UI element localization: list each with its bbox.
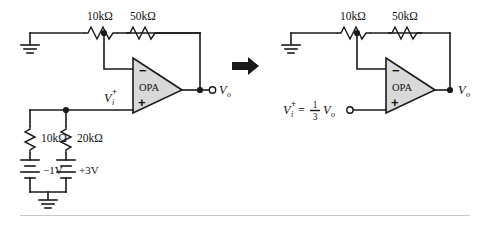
left-opamp-inverting-sign: −: [139, 63, 147, 78]
left-battery-neg1v-label: −1V: [43, 164, 63, 176]
right-input-terminal: [347, 107, 353, 113]
right-fraction-numerator: 1: [313, 100, 318, 110]
left-resistor-div-10k-symbol: [25, 126, 35, 153]
left-resistor-50k-label: 50kΩ: [130, 10, 156, 22]
right-vplus-subscript: i: [291, 110, 293, 119]
left-ground-top-icon: [21, 33, 39, 53]
left-vout-subscript: o: [227, 90, 231, 99]
right-resistor-50k-label: 50kΩ: [392, 10, 418, 22]
left-ground-bottom-icon: [39, 192, 57, 208]
left-vplus-superscript: +: [112, 87, 117, 97]
left-circuit: 10kΩ 50kΩ − OPA +: [21, 10, 231, 208]
left-output-terminal: [209, 87, 215, 93]
right-fraction-denominator: 3: [313, 112, 318, 122]
right-summing-node: [354, 30, 360, 36]
left-resistor-10k-label: 10kΩ: [87, 10, 113, 22]
left-summing-node: [101, 30, 107, 36]
right-vplus-superscript: +: [291, 99, 296, 109]
right-opamp-inverting-sign: −: [392, 63, 400, 78]
left-opamp-noninverting-sign: +: [138, 95, 146, 110]
left-resistor-div-20k-label: 20kΩ: [77, 132, 103, 144]
right-opamp-label: OPA: [392, 82, 412, 93]
right-resistor-10k-label: 10kΩ: [340, 10, 366, 22]
transition-arrow-icon: [232, 57, 259, 75]
left-battery-pos3v-label: +3V: [79, 164, 99, 176]
right-ground-top-icon: [282, 33, 300, 53]
right-circuit: 10kΩ 50kΩ − OPA + V: [282, 10, 470, 122]
right-input-expression: V i + = 1 3 V o: [283, 99, 335, 122]
right-equals-sign: =: [298, 103, 305, 117]
left-opamp-label: OPA: [139, 82, 159, 93]
left-battery-neg1v-symbol: [21, 160, 39, 178]
left-vplus-subscript: i: [112, 98, 114, 107]
circuit-figure: 10kΩ 50kΩ − OPA +: [0, 0, 495, 225]
right-fraction-of-subscript: o: [331, 110, 335, 119]
right-opamp-noninverting-sign: +: [391, 95, 399, 110]
right-vout-subscript: o: [466, 90, 470, 99]
right-output-node: [447, 87, 453, 93]
